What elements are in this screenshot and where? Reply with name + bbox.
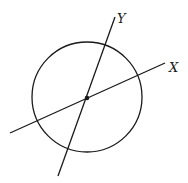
- center-point: [85, 96, 90, 101]
- y-axis-label: Y: [117, 11, 127, 26]
- x-axis-label: X: [168, 60, 179, 75]
- diagram-canvas: X Y: [0, 0, 188, 183]
